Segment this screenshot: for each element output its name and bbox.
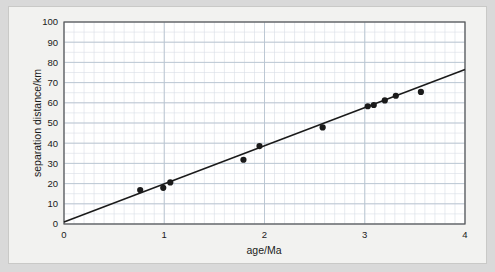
figure-container: 01234 0102030405060708090100 age/Ma sepa… (0, 0, 495, 272)
y-axis-label: separation distance/km (31, 69, 43, 177)
data-point (137, 187, 143, 193)
data-point (365, 103, 371, 109)
data-point (320, 124, 326, 130)
x-tick-label: 3 (362, 229, 367, 240)
y-tick-label: 0 (53, 218, 58, 229)
x-axis-label: age/Ma (246, 244, 281, 256)
y-tick-label: 80 (47, 57, 58, 68)
data-point (167, 179, 173, 185)
y-tick-label: 20 (47, 178, 58, 189)
data-point (382, 97, 388, 103)
y-tick-label: 30 (47, 158, 58, 169)
y-tick-label: 50 (47, 117, 58, 128)
data-point (371, 102, 377, 108)
scatter-chart: 01234 0102030405060708090100 age/Ma sepa… (0, 0, 495, 272)
data-point (393, 93, 399, 99)
y-tick-labels: 0102030405060708090100 (42, 16, 58, 229)
y-tick-label: 10 (47, 198, 58, 209)
y-tick-label: 100 (42, 16, 58, 27)
x-tick-label: 1 (162, 229, 167, 240)
data-point (256, 143, 262, 149)
data-point (240, 157, 246, 163)
data-point (160, 185, 166, 191)
x-tick-label: 2 (262, 229, 267, 240)
data-point (418, 89, 424, 95)
x-tick-label: 0 (61, 229, 66, 240)
y-tick-label: 60 (47, 97, 58, 108)
y-tick-label: 70 (47, 77, 58, 88)
y-tick-label: 90 (47, 37, 58, 48)
y-tick-label: 40 (47, 138, 58, 149)
x-tick-label: 4 (462, 229, 467, 240)
x-tick-labels: 01234 (61, 229, 467, 240)
